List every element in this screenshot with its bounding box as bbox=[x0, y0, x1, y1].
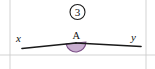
label-point-y: y bbox=[130, 31, 136, 43]
badge-number-label: 3 bbox=[75, 6, 81, 18]
figure-screenshot: 3 x A y bbox=[0, 0, 155, 69]
label-vertex-a: A bbox=[73, 30, 81, 41]
label-point-x: x bbox=[15, 32, 21, 44]
problem-number-badge: 3 bbox=[70, 5, 85, 20]
geometry-figure: 3 x A y bbox=[0, 0, 155, 69]
